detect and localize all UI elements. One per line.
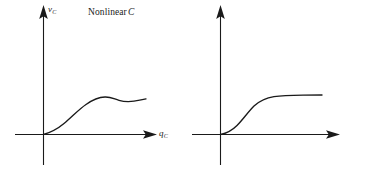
y-axis-label-subscript-c: C [52,8,56,15]
curve-nonlinear-c [44,97,147,135]
plot-nonlinear-l [183,0,365,177]
plot-nonlinear-c [0,0,182,177]
panel-nonlinear-l: NonlinearL iL ϕL [183,0,365,177]
nonlinear-element-characteristics-figure: NonlinearC vC qC NonlinearL iL ϕL [0,0,365,177]
x-axis-label-base-c: q [159,128,164,138]
x-axis-label-subscript-c: C [164,132,168,139]
panel-nonlinear-c: NonlinearC vC qC [0,0,182,177]
caption-nonlinear-c: NonlinearC [88,7,134,17]
caption-symbol-c: C [127,7,134,17]
y-axis-label-c: vC [48,4,56,15]
x-axis-label-c: qC [159,128,168,139]
curve-nonlinear-l [221,95,323,135]
caption-prefix-c: Nonlinear [88,7,127,17]
